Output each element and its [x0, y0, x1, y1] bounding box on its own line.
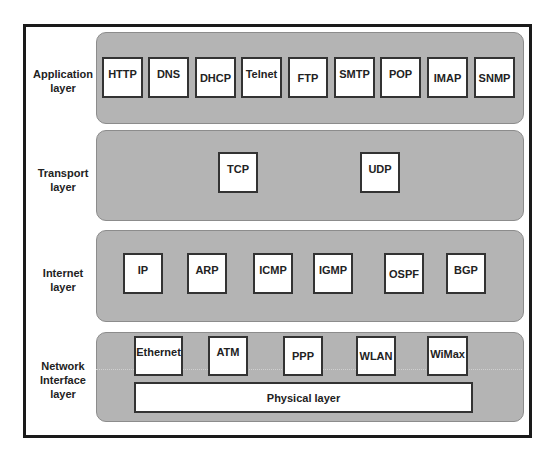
protocol-pop: POP: [380, 57, 421, 98]
protocol-ppp: PPP: [283, 336, 323, 376]
transport-layer-panel: [96, 130, 524, 221]
protocol-igmp: IGMP: [313, 253, 353, 294]
protocol-ftp: FTP: [288, 57, 328, 98]
protocol-wlan: WLAN: [356, 336, 396, 376]
protocol-arp: ARP: [187, 253, 227, 294]
protocol-dhcp: DHCP: [195, 57, 236, 98]
protocol-icmp: ICMP: [253, 253, 293, 294]
protocol-snmp: SNMP: [474, 57, 515, 98]
protocol-tcp: TCP: [218, 152, 258, 193]
network-interface-layer-label: Network Interface layer: [27, 359, 99, 401]
protocol-ospf: OSPF: [384, 253, 424, 294]
application-layer-label: Application layer: [27, 67, 99, 95]
protocol-atm: ATM: [208, 336, 248, 376]
protocol-udp: UDP: [360, 152, 400, 193]
protocol-telnet: Telnet: [241, 57, 282, 98]
protocol-bgp: BGP: [446, 253, 486, 294]
protocol-smtp: SMTP: [334, 57, 375, 98]
protocol-ip: IP: [123, 253, 163, 294]
protocol-ethernet: Ethernet: [134, 336, 183, 376]
physical-layer-bar: Physical layer: [134, 382, 473, 413]
internet-layer-label: Internet layer: [27, 266, 99, 294]
transport-layer-label: Transport layer: [27, 166, 99, 194]
protocol-http: HTTP: [102, 57, 143, 98]
protocol-wimax: WiMax: [427, 336, 468, 376]
protocol-dns: DNS: [148, 57, 189, 98]
protocol-imap: IMAP: [427, 57, 468, 98]
